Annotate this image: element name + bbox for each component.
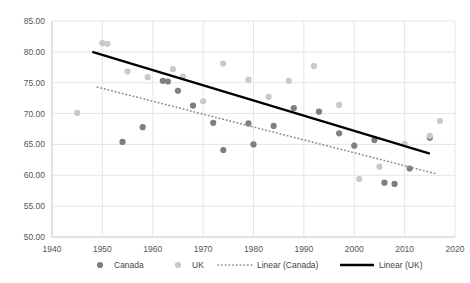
x-tick-label: 1990 <box>294 244 313 254</box>
legend-label: Linear (Canada) <box>257 260 319 270</box>
y-tick-label: 85.00 <box>24 16 46 26</box>
data-point <box>391 181 397 187</box>
y-tick-label: 65.00 <box>24 139 46 149</box>
x-tick-label: 2010 <box>395 244 414 254</box>
legend-item-linear-canada-[interactable]: Linear (Canada) <box>218 260 319 270</box>
data-point <box>165 78 171 84</box>
legend-label: UK <box>192 260 204 270</box>
x-tick-label: 1970 <box>194 244 213 254</box>
x-tick-label: 1940 <box>43 244 62 254</box>
x-tick-label: 2000 <box>345 244 364 254</box>
data-point <box>291 105 297 111</box>
data-point <box>119 139 125 145</box>
legend-label: Canada <box>114 260 144 270</box>
data-point <box>316 109 322 115</box>
legend-label: Linear (UK) <box>379 260 423 270</box>
x-tick-label: 1960 <box>143 244 162 254</box>
data-point <box>271 123 277 129</box>
data-point <box>74 110 80 116</box>
data-point <box>200 98 206 104</box>
data-point <box>145 74 151 80</box>
data-point <box>210 120 216 126</box>
data-point <box>140 124 146 130</box>
data-point <box>311 63 317 69</box>
scatter-chart: 50.0055.0060.0065.0070.0075.0080.0085.00… <box>0 0 470 283</box>
legend-marker-dot <box>175 262 181 268</box>
data-point <box>170 66 176 72</box>
x-tick-label: 2020 <box>446 244 465 254</box>
data-point <box>190 102 196 108</box>
legend-item-canada[interactable]: Canada <box>97 260 144 270</box>
data-point <box>245 77 251 83</box>
y-tick-label: 80.00 <box>24 47 46 57</box>
data-point <box>220 147 226 153</box>
data-point <box>376 164 382 170</box>
y-tick-label: 60.00 <box>24 170 46 180</box>
x-tick-label: 1980 <box>244 244 263 254</box>
data-point <box>437 118 443 124</box>
legend-marker-dot <box>97 262 103 268</box>
data-point <box>124 69 130 75</box>
data-point <box>427 133 433 139</box>
data-point <box>336 130 342 136</box>
data-point <box>104 41 110 47</box>
y-tick-label: 70.00 <box>24 109 46 119</box>
x-tick-label: 1950 <box>93 244 112 254</box>
y-tick-label: 50.00 <box>24 232 46 242</box>
data-point <box>220 60 226 66</box>
data-point <box>336 102 342 108</box>
chart-canvas: 50.0055.0060.0065.0070.0075.0080.0085.00… <box>0 0 470 283</box>
data-point <box>250 141 256 147</box>
data-point <box>286 78 292 84</box>
data-point <box>175 88 181 94</box>
data-point <box>381 180 387 186</box>
y-tick-label: 55.00 <box>24 201 46 211</box>
legend-item-linear-uk-[interactable]: Linear (UK) <box>340 260 423 270</box>
data-point <box>356 176 362 182</box>
data-point <box>266 94 272 100</box>
legend-item-uk[interactable]: UK <box>175 260 204 270</box>
y-tick-label: 75.00 <box>24 78 46 88</box>
data-point <box>351 143 357 149</box>
